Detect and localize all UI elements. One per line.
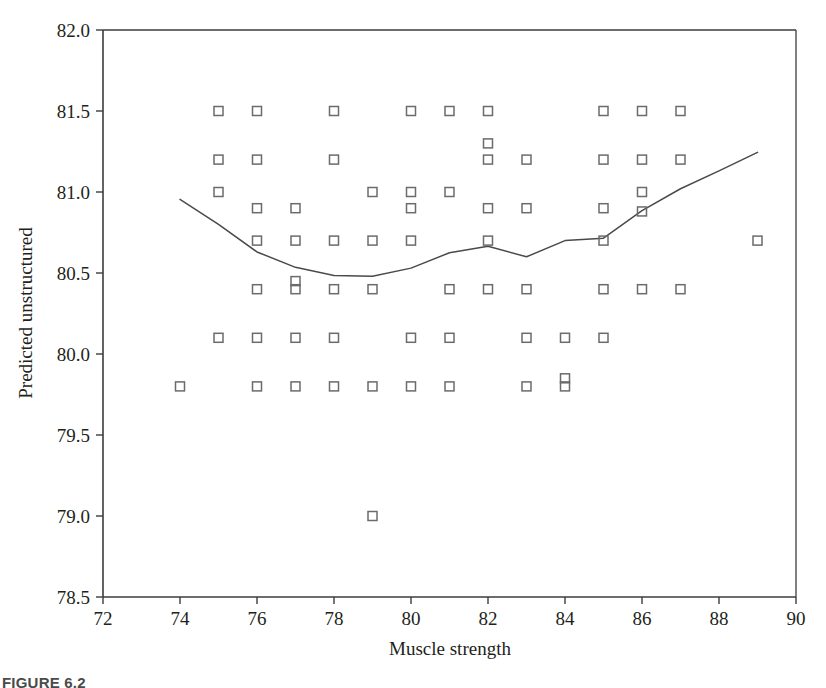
x-tick-label: 72 — [94, 608, 113, 629]
figure-caption: FIGURE 6.2 — [2, 674, 86, 688]
x-tick-label: 84 — [556, 608, 576, 629]
y-tick-label: 79.5 — [57, 425, 90, 446]
x-tick-label: 90 — [787, 608, 806, 629]
x-tick-label: 82 — [479, 608, 498, 629]
x-axis-title: Muscle strength — [389, 638, 511, 659]
y-tick-label: 79.0 — [57, 506, 90, 527]
y-tick-label: 81.0 — [57, 182, 90, 203]
x-tick-label: 78 — [325, 608, 344, 629]
y-tick-label: 81.5 — [57, 101, 90, 122]
x-tick-label: 76 — [248, 608, 267, 629]
y-tick-label: 82.0 — [57, 20, 90, 41]
x-tick-label: 88 — [710, 608, 729, 629]
x-tick-label: 80 — [402, 608, 421, 629]
x-tick-label: 74 — [171, 608, 191, 629]
y-axis-title: Predicted unstructured — [15, 227, 36, 399]
x-tick-label: 86 — [633, 608, 652, 629]
y-tick-label: 80.5 — [57, 263, 90, 284]
y-tick-label: 80.0 — [57, 344, 90, 365]
y-tick-label: 78.5 — [57, 587, 90, 608]
